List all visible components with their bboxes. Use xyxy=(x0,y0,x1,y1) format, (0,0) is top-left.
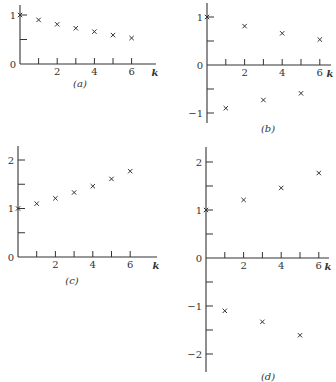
data-point-marker xyxy=(111,33,115,37)
data-point-marker xyxy=(129,36,133,40)
y-tick-label: 0 xyxy=(8,252,14,263)
x-tick-label: 4 xyxy=(91,66,97,77)
y-tick-label: 0 xyxy=(197,60,203,71)
x-tick-label: 6 xyxy=(317,67,323,78)
y-tick-label: 1 xyxy=(10,10,16,21)
data-point-marker xyxy=(74,26,78,30)
x-tick-label: 4 xyxy=(279,67,285,78)
data-point-marker xyxy=(35,201,39,205)
data-point-marker xyxy=(128,169,132,173)
data-point-marker xyxy=(298,333,302,337)
data-point-marker xyxy=(317,171,321,175)
data-point-marker xyxy=(55,22,59,26)
panel-b: 246k−101(b) xyxy=(188,3,333,134)
data-point-marker xyxy=(299,91,303,95)
data-point-marker xyxy=(109,177,113,181)
x-tick-label: 4 xyxy=(278,260,284,271)
y-tick-label: −1 xyxy=(188,108,203,119)
y-tick-label: −1 xyxy=(187,301,202,312)
panel-label: (a) xyxy=(73,78,87,89)
y-tick-label: 0 xyxy=(10,59,16,70)
data-point-marker xyxy=(223,309,227,313)
panel-label: (b) xyxy=(261,123,275,134)
data-point-marker xyxy=(280,31,284,35)
data-point-marker xyxy=(91,184,95,188)
data-point-marker xyxy=(261,98,265,102)
x-axis-label: k xyxy=(325,261,332,272)
x-tick-label: 6 xyxy=(316,260,322,271)
x-tick-label: 4 xyxy=(90,259,96,270)
y-tick-label: 2 xyxy=(196,157,202,168)
y-tick-label: 1 xyxy=(197,12,203,23)
x-axis-label: k xyxy=(152,67,159,78)
x-axis-label: k xyxy=(327,68,334,79)
data-point-marker xyxy=(224,106,228,110)
panel-a: 246k01(a) xyxy=(10,5,159,89)
figure-four-panels: 246k01(a)246k−101(b)246k012(c)246k−2−101… xyxy=(0,0,336,382)
data-point-marker xyxy=(92,29,96,33)
data-point-marker xyxy=(72,190,76,194)
x-tick-label: 6 xyxy=(128,66,134,77)
x-axis-label: k xyxy=(153,260,160,271)
data-point-marker xyxy=(242,24,246,28)
panel-label: (d) xyxy=(261,371,275,382)
x-tick-label: 2 xyxy=(240,260,246,271)
panel-d: 246k−2−1012(d) xyxy=(187,147,331,382)
x-tick-label: 2 xyxy=(241,67,247,78)
y-tick-label: 0 xyxy=(196,253,202,264)
data-point-marker xyxy=(279,186,283,190)
x-tick-label: 6 xyxy=(127,259,133,270)
y-tick-label: −2 xyxy=(187,349,202,360)
data-point-marker xyxy=(53,196,57,200)
data-point-marker xyxy=(36,18,40,22)
data-point-marker xyxy=(318,37,322,41)
x-tick-label: 2 xyxy=(54,66,60,77)
x-tick-label: 2 xyxy=(52,259,58,270)
data-point-marker xyxy=(260,320,264,324)
panel-label: (c) xyxy=(65,275,79,286)
data-point-marker xyxy=(241,198,245,202)
y-tick-label: 1 xyxy=(8,203,14,214)
y-tick-label: 2 xyxy=(8,155,14,166)
y-tick-label: 1 xyxy=(196,205,202,216)
panel-c: 246k012(c) xyxy=(8,146,160,286)
